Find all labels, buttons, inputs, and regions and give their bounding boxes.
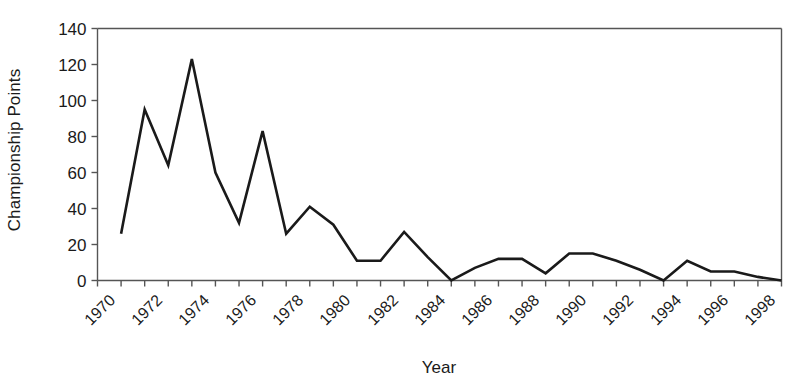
y-tick-label: 140 <box>39 21 87 38</box>
axis-frame <box>98 29 782 281</box>
y-tick-label: 40 <box>39 201 87 218</box>
line-chart: Championship Points Year 020406080100120… <box>0 0 799 391</box>
y-tick-label: 80 <box>39 129 87 146</box>
y-tick-label: 20 <box>39 237 87 254</box>
y-axis-ticks <box>92 29 98 281</box>
x-axis-ticks <box>98 281 782 287</box>
y-tick-label: 120 <box>39 57 87 74</box>
y-tick-label: 60 <box>39 165 87 182</box>
y-tick-label: 100 <box>39 93 87 110</box>
y-tick-label: 0 <box>39 273 87 290</box>
data-series-line <box>121 59 781 280</box>
